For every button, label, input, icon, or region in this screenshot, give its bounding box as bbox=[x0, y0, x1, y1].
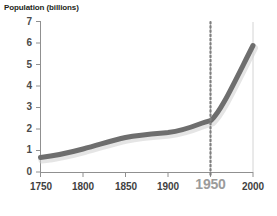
x-tick-label-2000: 2000 bbox=[234, 181, 272, 192]
x-tick-label-1800: 1800 bbox=[64, 181, 102, 192]
y-tick-label-2: 2 bbox=[18, 123, 32, 134]
y-tick-label-6: 6 bbox=[18, 37, 32, 48]
y-tick-label-5: 5 bbox=[18, 59, 32, 70]
x-tick-label-1850: 1850 bbox=[107, 181, 145, 192]
y-tick-label-4: 4 bbox=[18, 80, 32, 91]
y-tick-label-3: 3 bbox=[18, 101, 32, 112]
y-tick-label-0: 0 bbox=[18, 166, 32, 177]
y-tick-label-1: 1 bbox=[18, 144, 32, 155]
data-line-world-population bbox=[41, 46, 254, 158]
x-tick-label-1750: 1750 bbox=[22, 181, 60, 192]
population-chart: Population (billions) bbox=[0, 0, 277, 216]
x-tick-label-1900: 1900 bbox=[149, 181, 187, 192]
x-tick-label-1950: 1950 bbox=[186, 176, 235, 192]
y-tick-label-7: 7 bbox=[18, 16, 32, 27]
y-axis-ticks bbox=[36, 22, 40, 173]
